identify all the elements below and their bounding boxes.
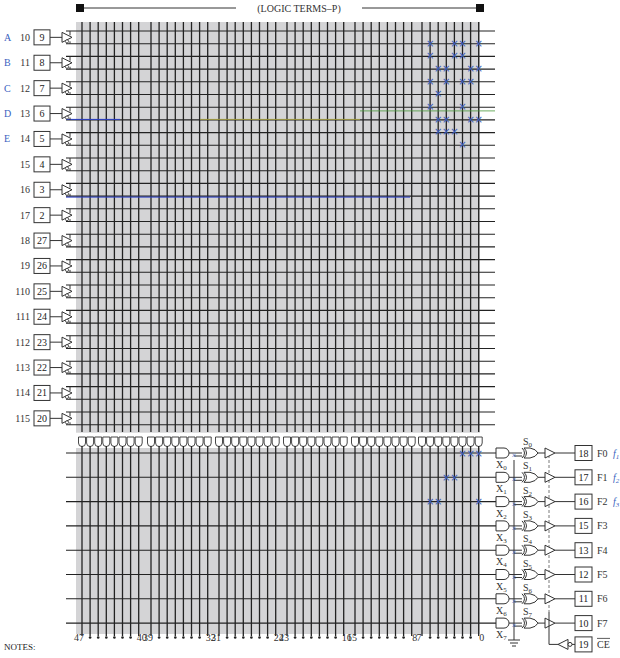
pin-number: 5 [40,133,45,144]
and-gate-icon [427,437,434,447]
output-section: X0×S018F0f1X1×S117F1f2X2×S216F2f3X3×S315… [496,436,620,652]
input-I14: 11421 [15,385,72,400]
variable-label: A [4,32,12,43]
input-I5: 154 [20,157,72,172]
output-name: F7 [597,618,608,629]
inverter-bubble-icon [65,268,68,271]
logic-terms-label: (LOGIC TERMS–P) [257,3,340,15]
and-gate-icon [156,437,163,447]
input-I3: D136 [4,106,72,121]
input-I6: 163 [20,182,72,197]
term-dot-icon [437,636,440,639]
output-F3: X3×S315F3 [496,509,608,545]
xor-fuse-mark-icon: × [511,572,516,582]
tristate-buffer-icon [545,472,555,482]
output-pin-number: 11 [579,593,589,604]
input-I8: 1827 [20,233,72,248]
fuse-mark-icon: × [458,38,466,49]
term-dot-icon [402,636,405,639]
input-I2: C127 [4,81,72,96]
fuse-mark-icon: × [475,38,483,49]
terminal-square-right-icon [476,4,484,12]
and-gate-icon [111,437,118,446]
and-gate-icon [392,437,399,447]
xor-fuse-mark-icon: × [511,523,516,533]
input-I13: 11322 [15,360,72,375]
xor-gate-icon [522,618,538,628]
inverter-bubble-icon [65,294,68,297]
and-gate-icon [127,437,134,446]
and-gate-icon [308,437,315,447]
tristate-buffer-icon [545,570,555,580]
and-gate-icon [248,437,255,447]
term-dot-icon [326,636,329,639]
and-gate-icon [340,437,347,447]
xor-fuse-mark-icon: × [511,620,516,630]
pla-diagram: (LOGIC TERMS–P) ××××××××××××××××××××××××… [0,0,620,658]
inverter-bubble-icon [65,395,68,398]
term-label-high: 15 [347,632,357,643]
s-label: S0 [523,436,533,449]
pin-number: 9 [40,32,45,43]
inverter-bubble-icon [65,319,68,322]
fuse-mark-icon: × [458,139,466,150]
xor-gate-icon [522,594,538,604]
output-F5: X5×S512F5 [496,558,608,594]
pin-number: 27 [37,235,47,246]
inverter-bubble-icon [568,642,572,646]
pin-number: 8 [40,57,45,68]
term-dot-icon [362,636,365,639]
output-pin-number: 17 [579,472,589,483]
input-name-label: 11 [20,57,30,68]
inverter-bubble-icon [65,192,68,195]
or-gate-icon [496,545,509,555]
s-label: S6 [523,582,533,595]
term-dot-icon [190,636,193,639]
output-name: F1 [597,472,608,483]
output-name: F5 [597,569,608,580]
input-I7: 172 [20,208,72,223]
fuse-mark-icon: × [426,101,434,112]
fuse-mark-icon: × [442,63,450,74]
and-gate-icon [384,437,391,447]
and-gate-icon [79,437,86,447]
and-gate-icon [240,437,247,447]
or-gate-icon [496,521,509,531]
term-dot-icon [174,636,177,639]
output-name: F3 [597,520,608,531]
pin-number: 2 [40,210,45,221]
x-label: X4 [496,556,507,569]
input-name-label: 12 [20,83,30,94]
input-I1: B118 [4,55,72,70]
output-name: F2 [597,496,608,507]
term-dot-icon [182,636,185,639]
x-label: X5 [496,581,507,594]
term-dot-icon [334,636,337,639]
tristate-buffer-icon [545,594,555,604]
input-name-label: 17 [20,210,30,221]
x-label: X6 [496,605,507,618]
tristate-buffer-icon [545,521,555,531]
input-name-label: 15 [20,159,30,170]
output-pin-number: 10 [579,618,589,629]
input-name-label: 112 [15,337,30,348]
and-array-background [76,22,480,433]
or-gate-icon [496,497,509,507]
term-dot-icon [429,636,432,639]
term-dot-icon [158,636,161,639]
and-gate-icon [408,437,415,447]
input-I0: A109 [4,30,72,45]
inverter-bubble-icon [65,167,68,170]
term-dot-icon [198,636,201,639]
term-label-high: 23 [279,632,289,643]
and-gate-icon [216,437,223,447]
pin-number: 24 [37,311,47,322]
function-label: f2 [613,472,620,485]
tristate-buffer-icon [545,545,555,555]
output-pin-number: 15 [579,520,589,531]
input-name-label: 115 [15,413,30,424]
pin-number: 21 [37,387,47,398]
input-I15: 11520 [15,411,72,426]
xor-fuse-mark-icon: × [511,450,516,460]
pin-number: 25 [37,286,47,297]
